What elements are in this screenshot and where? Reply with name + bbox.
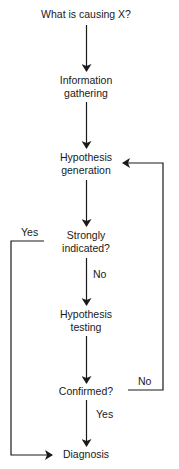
edge-label-confirmed-yes: Yes xyxy=(96,408,113,421)
node-confirmed: Confirmed? xyxy=(59,385,113,398)
node-label: Diagnosis xyxy=(63,448,109,461)
node-label-line2: indicated? xyxy=(62,242,110,255)
edge-label-strong-yes: Yes xyxy=(21,226,38,239)
node-label-line1: Strongly xyxy=(62,229,110,242)
node-label-line1: Hypothesis xyxy=(60,308,112,321)
node-label-line1: Hypothesis xyxy=(60,151,112,164)
node-label: Confirmed? xyxy=(59,385,113,398)
arrow-strong-yes-to-diagnosis xyxy=(11,241,52,455)
node-label: What is causing X? xyxy=(41,8,131,21)
node-strongly-indicated: Strongly indicated? xyxy=(62,229,110,255)
node-hypothesis-testing: Hypothesis testing xyxy=(60,308,112,334)
node-label-line2: gathering xyxy=(60,87,113,100)
node-label-line1: Information xyxy=(60,74,113,87)
node-information-gathering: Information gathering xyxy=(60,74,113,100)
node-hypothesis-generation: Hypothesis generation xyxy=(60,151,112,177)
edge-label-confirmed-no: No xyxy=(138,375,151,388)
edge-label-strong-no: No xyxy=(93,268,106,281)
node-what-is-causing: What is causing X? xyxy=(41,8,131,21)
node-label-line2: testing xyxy=(60,321,112,334)
node-diagnosis: Diagnosis xyxy=(63,448,109,461)
node-label-line2: generation xyxy=(60,164,112,177)
arrow-confirmed-no-to-hypgen xyxy=(123,163,163,390)
